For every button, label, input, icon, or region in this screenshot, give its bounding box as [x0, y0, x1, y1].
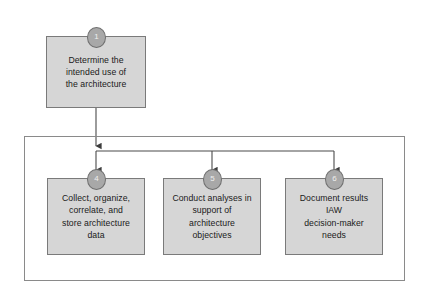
node-4-label: Collect, organize, correlate, and store … — [52, 192, 140, 241]
node-4-step-badge: 4 — [87, 169, 106, 190]
diagram-canvas: Determine the intended use of the archit… — [0, 0, 423, 301]
node-1-label: Determine the intended use of the archit… — [51, 54, 141, 91]
node-5-step-badge: 5 — [203, 169, 222, 190]
node-1-step-badge: 1 — [87, 27, 106, 48]
node-5-label: Conduct analyses in support of architect… — [168, 192, 256, 241]
node-6-step-badge: 6 — [325, 169, 344, 190]
node-6-label: Document results IAW decision-maker need… — [290, 192, 378, 241]
